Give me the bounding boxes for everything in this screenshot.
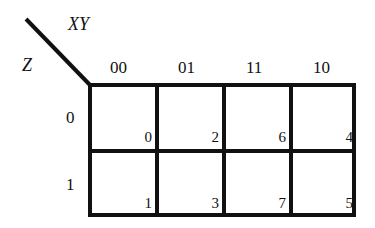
kmap-grid: 0 2 6 4 1 3 7 5 [88, 83, 356, 217]
column-variable-label: XY [68, 14, 89, 35]
grid-line [92, 149, 352, 153]
row-variable-label: Z [22, 55, 32, 76]
cell-minterm: 2 [199, 129, 219, 146]
cell-minterm: 4 [333, 129, 353, 146]
row-code-0: 0 [66, 108, 75, 128]
cell-minterm: 6 [266, 129, 286, 146]
column-code-10: 10 [313, 58, 330, 78]
column-code-00: 00 [110, 58, 127, 78]
cell-minterm: 1 [132, 195, 152, 212]
row-code-1: 1 [66, 175, 75, 195]
cell-minterm: 3 [199, 195, 219, 212]
cell-minterm: 5 [333, 195, 353, 212]
cell-minterm: 0 [132, 129, 152, 146]
column-code-01: 01 [178, 58, 195, 78]
column-code-11: 11 [246, 58, 262, 78]
cell-minterm: 7 [266, 195, 286, 212]
